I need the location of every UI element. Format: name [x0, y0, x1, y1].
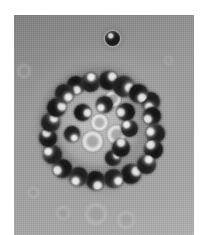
inner-cell-01: [95, 95, 113, 113]
background-ghost-cell-01: [17, 64, 31, 78]
micrograph-plate: [14, 15, 194, 235]
background-ghost-cell-04: [117, 211, 135, 229]
micrograph-figure: [0, 0, 204, 235]
background-ghost-cell-03: [85, 203, 107, 225]
center-target-cell: [82, 131, 103, 152]
background-ghost-cell-05: [164, 56, 173, 65]
inner-cell-03: [120, 119, 137, 136]
inner-cell-07: [63, 125, 81, 143]
center-pale-cell-03: [91, 114, 108, 131]
solitary-cell: [105, 31, 120, 46]
background-ghost-cell-06: [56, 206, 70, 220]
background-ghost-cell-02: [28, 187, 39, 198]
